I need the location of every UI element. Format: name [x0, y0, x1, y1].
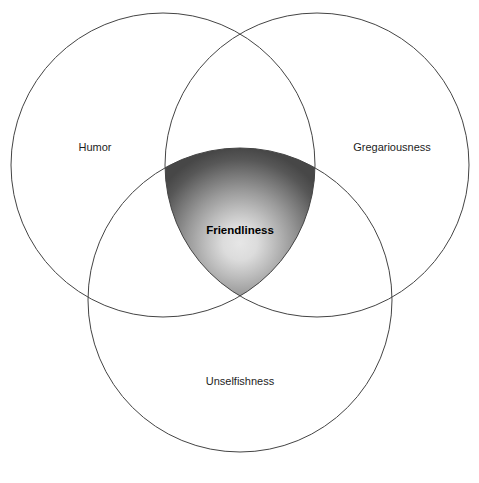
label-humor: Humor: [78, 141, 111, 153]
venn-diagram-canvas: Humor Gregariousness Unselfishness Frien…: [0, 0, 479, 483]
label-unselfishness: Unselfishness: [206, 375, 275, 387]
label-gregariousness: Gregariousness: [353, 141, 431, 153]
intersection-fill: [0, 0, 479, 483]
label-friendliness: Friendliness: [206, 224, 274, 236]
venn-diagram: Humor Gregariousness Unselfishness Frien…: [0, 0, 479, 483]
intersection-region: [0, 0, 479, 483]
